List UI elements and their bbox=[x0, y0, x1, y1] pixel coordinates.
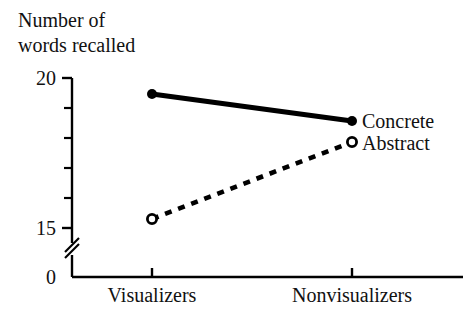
data-point-concrete-visualizers bbox=[147, 89, 157, 99]
legend-label-concrete: Concrete bbox=[362, 111, 434, 131]
series-line-concrete bbox=[152, 94, 352, 121]
legend-label-abstract: Abstract bbox=[362, 133, 430, 153]
y-tick-label-0: 0 bbox=[18, 267, 56, 287]
data-point-concrete-nonvisualizers bbox=[347, 116, 357, 126]
series-line-abstract bbox=[152, 142, 352, 219]
plot-area bbox=[0, 0, 475, 326]
data-point-abstract-nonvisualizers bbox=[347, 137, 356, 146]
x-category-label-nonvisualizers: Nonvisualizers bbox=[267, 285, 437, 305]
x-category-label-visualizers: Visualizers bbox=[82, 285, 222, 305]
y-tick-label-15: 15 bbox=[18, 218, 56, 238]
y-tick-label-20: 20 bbox=[18, 68, 56, 88]
chart-figure: Number of words recalled 20 15 0 bbox=[0, 0, 475, 326]
data-point-abstract-visualizers bbox=[147, 214, 156, 223]
